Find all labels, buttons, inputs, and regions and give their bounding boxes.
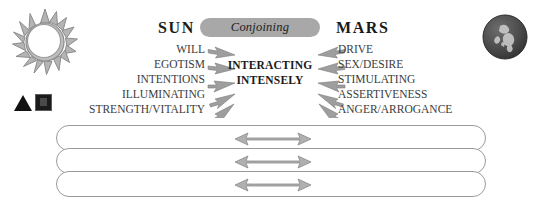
interaction-text: INTERACTING INTENSELY <box>218 58 322 88</box>
aspect-label: Conjoining <box>231 20 289 35</box>
list-item: ANGER/ARROGANCE <box>338 102 488 117</box>
sun-title: SUN <box>158 17 195 39</box>
interaction-bars <box>56 125 486 197</box>
header-row: SUN Conjoining MARS <box>150 17 410 39</box>
mars-keyword-list: DRIVE SEX/DESIRE STIMULATING ASSERTIVENE… <box>338 42 488 117</box>
triangle-glyph <box>14 95 32 111</box>
double-headed-arrow-icon <box>235 154 311 170</box>
list-item: INTENTIONS <box>60 72 205 87</box>
table-row <box>56 171 486 197</box>
list-item: WILL <box>60 42 205 57</box>
list-item: EGOTISM <box>60 57 205 72</box>
list-item: DRIVE <box>338 42 488 57</box>
list-item: STIMULATING <box>338 72 488 87</box>
double-headed-arrow-icon <box>235 131 311 147</box>
list-item: ILLUMINATING <box>60 87 205 102</box>
sun-keyword-list: WILL EGOTISM INTENTIONS ILLUMINATING STR… <box>60 42 205 117</box>
list-item: ASSERTIVENESS <box>338 87 488 102</box>
list-item: STRENGTH/VITALITY <box>60 102 205 117</box>
aspect-pill: Conjoining <box>200 18 320 37</box>
interaction-line-2: INTENSELY <box>218 73 322 88</box>
square-glyph <box>35 94 52 111</box>
list-item: SEX/DESIRE <box>338 57 488 72</box>
double-headed-arrow-icon <box>235 177 311 193</box>
mars-title: MARS <box>336 17 390 39</box>
interaction-line-1: INTERACTING <box>218 58 322 73</box>
planet-glyph-pair <box>14 93 56 111</box>
